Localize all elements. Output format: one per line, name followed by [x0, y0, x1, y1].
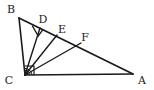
label-A: A — [137, 74, 147, 87]
segment-CA — [25, 74, 133, 75]
label-E: E — [58, 23, 66, 36]
label-B: B — [7, 3, 15, 16]
geometry-figure: B D E F C A — [0, 0, 154, 90]
segment-BC — [19, 18, 25, 75]
figure-canvas: B D E F C A — [0, 0, 154, 90]
segment-CE — [25, 35, 57, 75]
label-F: F — [81, 31, 89, 44]
label-D: D — [39, 13, 48, 26]
label-C: C — [5, 74, 13, 87]
